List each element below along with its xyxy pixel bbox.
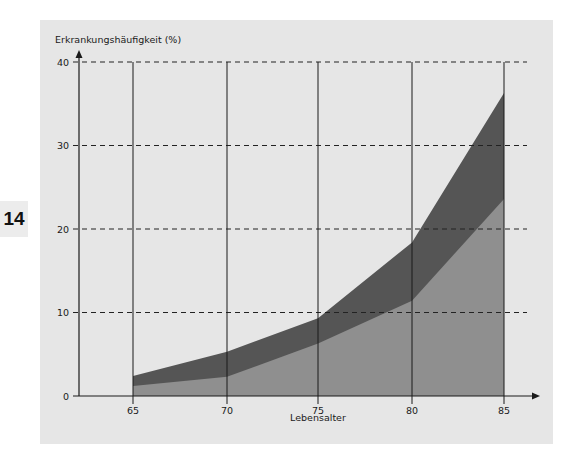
y-tick-label: 0 [63, 391, 69, 402]
x-tick-label: 85 [498, 405, 510, 416]
x-tick-label: 80 [406, 405, 418, 416]
x-axis-title: Lebensalter [290, 412, 346, 423]
y-axis-arrow-icon [76, 50, 83, 58]
y-axis-title: Erkrankungshäufigkeit (%) [55, 34, 181, 45]
x-axis-arrow-icon [532, 393, 540, 400]
x-tick-label: 70 [221, 405, 233, 416]
area-chart: 010203040 6570758085 Erkrankungshäufigke… [0, 0, 570, 461]
y-tick-label: 40 [57, 57, 69, 68]
y-tick-label: 10 [57, 307, 69, 318]
y-tick-label: 30 [57, 140, 69, 151]
x-tick-label: 65 [127, 405, 139, 416]
y-tick-label: 20 [57, 224, 69, 235]
